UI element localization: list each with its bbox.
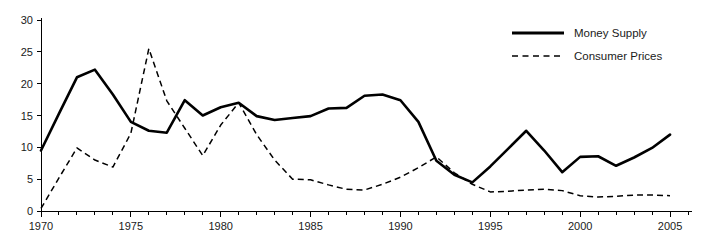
chart-legend: Money SupplyConsumer Prices	[512, 27, 662, 62]
y-axis: 051015202530	[21, 14, 41, 217]
y-tick-label: 20	[21, 78, 33, 90]
x-axis: 19701975198019851990199520002005	[29, 211, 692, 232]
line-chart: 051015202530 197019751980198519901995200…	[0, 0, 703, 250]
legend-label: Money Supply	[574, 27, 647, 39]
y-tick-label: 15	[21, 110, 33, 122]
y-tick-label: 25	[21, 46, 33, 58]
x-tick-label: 1990	[388, 220, 412, 232]
chart-canvas: 051015202530 197019751980198519901995200…	[0, 0, 703, 250]
series-line-money-supply	[41, 70, 670, 183]
x-tick-label: 1985	[298, 220, 322, 232]
x-tick-label: 2000	[568, 220, 592, 232]
x-tick-label: 1970	[29, 220, 53, 232]
y-tick-label: 30	[21, 14, 33, 26]
series-line-consumer-prices	[41, 49, 670, 209]
y-tick-label: 5	[27, 173, 33, 185]
x-tick-label: 1995	[478, 220, 502, 232]
y-tick-label: 10	[21, 141, 33, 153]
x-tick-label: 1975	[119, 220, 143, 232]
legend-label: Consumer Prices	[574, 50, 662, 62]
y-tick-label: 0	[27, 205, 33, 217]
x-tick-label: 2005	[658, 220, 682, 232]
x-tick-label: 1980	[208, 220, 232, 232]
series-layer	[41, 49, 670, 209]
